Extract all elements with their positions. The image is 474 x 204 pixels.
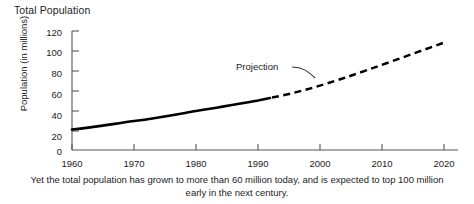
series-line-actual <box>72 98 270 130</box>
chart-container: Total Population Population (in millions… <box>0 0 474 204</box>
y-axis-ticks <box>72 31 79 131</box>
x-axis-ticks <box>72 144 444 150</box>
series-line-projection <box>272 42 447 98</box>
chart-caption: Yet the total population has grown to mo… <box>0 173 474 199</box>
projection-leader-line <box>292 67 315 78</box>
